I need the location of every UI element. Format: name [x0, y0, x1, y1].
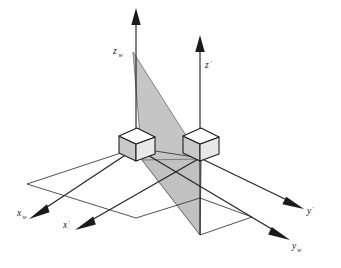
axis-label-y-prime: y ′	[306, 206, 314, 216]
axis-label-x-world-text: x	[16, 208, 22, 218]
axis-label-z-prime: z ′	[204, 60, 212, 70]
axis-label-x-prime: x ′	[62, 220, 70, 230]
axis-label-y-prime-mark: ′	[312, 206, 314, 212]
axis-z-world-arrowhead	[131, 8, 140, 25]
ground-plane-group	[27, 148, 252, 235]
axis-x-world-arrowhead	[29, 204, 50, 219]
axis-label-z-world-subscript: w	[118, 52, 122, 58]
axis-x-world-line	[44, 148, 136, 209]
axis-label-z-prime-mark: ′	[210, 60, 212, 66]
axis-label-z-prime-text: z	[204, 60, 209, 70]
axis-y-prime	[200, 158, 304, 209]
coordinate-system-diagram: z w z ′ x w x ′ y ′	[0, 0, 341, 268]
axis-y-world	[136, 148, 290, 240]
axis-label-x-prime-mark: ′	[68, 220, 70, 226]
axis-y-prime-arrowhead	[282, 197, 304, 209]
axis-label-y-world-text: y	[291, 241, 297, 251]
axis-y-world-arrowhead	[268, 227, 290, 240]
axis-x-prime-arrowhead	[75, 217, 96, 230]
axis-x-world	[29, 148, 136, 219]
axis-label-y-world-subscript: w	[297, 247, 301, 253]
prime-cube	[183, 128, 219, 161]
ground-edge-diag-right	[200, 217, 252, 235]
axis-z-prime-arrowhead	[195, 35, 204, 52]
axis-label-x-world: x w	[16, 208, 26, 220]
axis-label-z-world: z w	[112, 46, 122, 58]
axis-label-y-world: y w	[291, 241, 301, 253]
axis-label-x-prime-text: x	[62, 220, 68, 230]
axis-label-z-world-text: z	[112, 46, 117, 56]
ground-edge-diag-bottom	[200, 198, 252, 217]
transform-plane-lower-polygon	[142, 159, 201, 235]
figure-root: z w z ′ x w x ′ y ′	[0, 0, 341, 268]
axis-label-x-world-subscript: w	[22, 214, 26, 220]
